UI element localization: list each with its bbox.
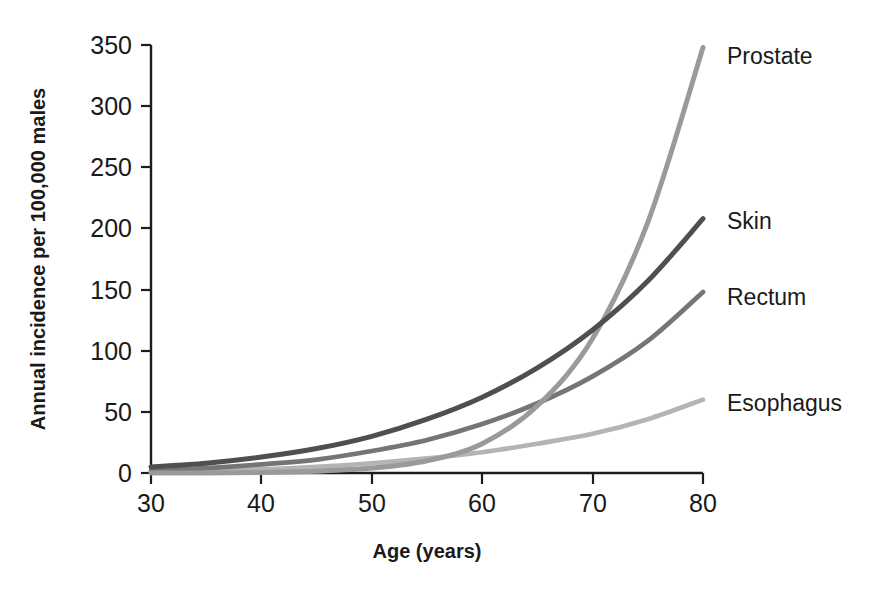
y-tick-label-200: 200 bbox=[90, 214, 132, 242]
x-tick-label-80: 80 bbox=[689, 489, 717, 517]
x-tick-label-50: 50 bbox=[358, 489, 386, 517]
x-tick-label-70: 70 bbox=[579, 489, 607, 517]
y-tick-label-250: 250 bbox=[90, 153, 132, 181]
series-label-rectum: Rectum bbox=[727, 284, 806, 310]
chart-figure: 350 300 250 200 150 100 50 0 Annual inci… bbox=[0, 0, 876, 589]
series-label-prostate: Prostate bbox=[727, 43, 813, 69]
y-tick-label-300: 300 bbox=[90, 92, 132, 120]
y-tick-label-100: 100 bbox=[90, 337, 132, 365]
series-label-esophagus: Esophagus bbox=[727, 390, 842, 416]
x-tick-label-40: 40 bbox=[247, 489, 275, 517]
y-tick-label-350: 350 bbox=[90, 31, 132, 59]
y-tick-label-50: 50 bbox=[104, 398, 132, 426]
x-tick-label-30: 30 bbox=[137, 489, 165, 517]
x-tick-label-60: 60 bbox=[468, 489, 496, 517]
y-axis-title: Annual incidence per 100,000 males bbox=[27, 88, 49, 430]
x-axis-title: Age (years) bbox=[373, 540, 482, 562]
y-tick-label-150: 150 bbox=[90, 276, 132, 304]
incidence-line-chart: 350 300 250 200 150 100 50 0 Annual inci… bbox=[0, 0, 876, 589]
series-label-skin: Skin bbox=[727, 208, 772, 234]
y-tick-label-0: 0 bbox=[118, 459, 132, 487]
